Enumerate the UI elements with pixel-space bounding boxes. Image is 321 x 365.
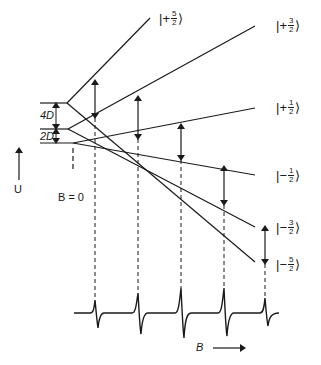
energy-level-diagram [0,0,321,365]
state-label-plus-3-2: |+32⟩ [276,17,300,34]
level-minus-3-2 [68,129,255,227]
field-axis-label: B [196,342,203,353]
state-label-minus-5-2: |−52⟩ [276,256,300,273]
state-label-minus-1-2: |−12⟩ [276,167,300,184]
state-label-plus-1-2: |+12⟩ [276,99,300,116]
energy-axis-label: U [14,184,22,195]
zero-field-label: B = 0 [58,192,84,203]
splitting-label-2d: 2D [40,131,54,142]
splitting-label-4d: 4D [40,110,54,121]
state-label-plus-5-2: |+52⟩ [159,10,183,27]
epr-spectrum [74,288,279,338]
level-plus-1-2 [73,108,255,143]
level-minus-1-2 [73,143,255,175]
state-label-minus-3-2: |−32⟩ [276,219,300,236]
